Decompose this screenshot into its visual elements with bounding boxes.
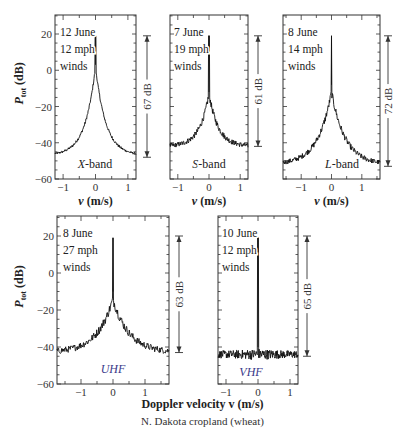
x-axis-label: v (m/s): [314, 194, 348, 208]
annotation-text: 7 June: [174, 26, 204, 38]
y-tick-label: −60: [35, 173, 53, 185]
panel-s-band: −1017 June19 mphwindsS-band61 dBv (m/s): [170, 15, 264, 208]
x-axis-label: v (m/s): [192, 194, 226, 208]
x-tick-label: 0: [206, 181, 212, 193]
y-axis-label: Ptot (dB): [12, 265, 28, 307]
annotation-text: 12 mph: [222, 244, 257, 257]
annotation-text: 19 mph: [174, 43, 209, 56]
annotation-text: winds: [174, 60, 202, 72]
annotation-text: 12 June: [60, 26, 95, 38]
band-label: VHF: [239, 365, 263, 379]
y-tick-label: −20: [35, 101, 53, 113]
spectrum-line: [218, 238, 298, 360]
annotation-text: winds: [222, 261, 250, 273]
band-label: S-band: [192, 157, 225, 171]
band-label: X-band: [77, 157, 113, 171]
annotation-text: 12 mph: [60, 43, 95, 56]
x-tick-label: −1: [295, 181, 307, 193]
figure-caption: N. Dakota cropland (wheat): [0, 415, 405, 427]
band-label: L-band: [324, 157, 359, 171]
annotation-text: 14 mph: [288, 43, 323, 56]
panel-x-band: −60−40−20020−10112 June12 mphwindsX-band…: [12, 15, 153, 208]
common-x-axis-label: Doppler velocity v (m/s): [0, 397, 405, 412]
x-tick-label: −1: [172, 181, 184, 193]
dynamic-range-label: 63 dB: [173, 281, 185, 308]
annotation-text: winds: [60, 60, 88, 72]
dynamic-range-label: 61 dB: [252, 78, 264, 105]
dynamic-range-label: 65 dB: [301, 283, 313, 310]
y-tick-label: 20: [43, 230, 55, 242]
figure-canvas: −60−40−20020−10112 June12 mphwindsX-band…: [0, 0, 405, 436]
x-tick-label: 1: [359, 181, 365, 193]
y-tick-label: −60: [37, 378, 55, 390]
spectrum-line: [283, 36, 380, 164]
y-tick-label: −40: [35, 137, 53, 149]
x-tick-label: 1: [125, 181, 131, 193]
dynamic-range-indicator: 63 dB: [173, 236, 185, 353]
annotation-text: 8 June: [63, 227, 93, 239]
annotation-text: 8 June: [288, 26, 318, 38]
y-axis-label: Ptot (dB): [12, 62, 28, 104]
dynamic-range-label: 67 dB: [141, 83, 153, 110]
x-tick-label: 0: [329, 181, 335, 193]
annotation-text: 27 mph: [63, 244, 98, 257]
panel-uhf: −60−40−20020−1018 June27 mphwindsUHF63 d…: [12, 216, 185, 398]
dynamic-range-indicator: 61 dB: [252, 36, 264, 147]
annotation-text: winds: [288, 60, 316, 72]
panel-vhf: −10110 June12 mphwindsVHF65 dB: [218, 216, 313, 398]
band-label: UHF: [101, 362, 126, 376]
annotation-text: 10 June: [222, 227, 257, 239]
y-tick-label: 0: [47, 64, 53, 76]
x-tick-label: 1: [237, 181, 243, 193]
y-tick-label: 20: [41, 28, 53, 40]
annotation-text: winds: [63, 261, 91, 273]
y-tick-label: −40: [37, 341, 55, 353]
dynamic-range-indicator: 67 dB: [141, 36, 153, 157]
x-tick-label: −1: [57, 181, 69, 193]
x-axis-label: v (m/s): [78, 194, 112, 208]
dynamic-range-indicator: 72 dB: [382, 36, 394, 167]
y-tick-label: −20: [37, 304, 55, 316]
dynamic-range-indicator: 65 dB: [301, 236, 313, 356]
dynamic-range-label: 72 dB: [382, 88, 394, 115]
y-tick-label: 0: [49, 267, 55, 279]
x-tick-label: 0: [93, 181, 99, 193]
panel-l-band: −1018 June14 mphwindsL-band72 dBv (m/s): [283, 15, 394, 208]
